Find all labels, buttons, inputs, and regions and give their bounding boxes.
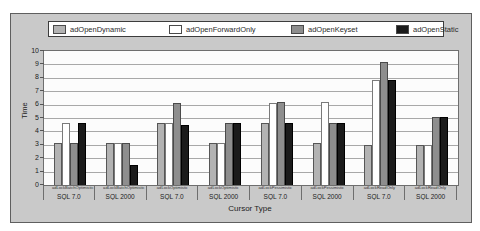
- legend-swatch-icon: [169, 25, 182, 34]
- x-category-sql-version: SQL 2000: [302, 193, 353, 200]
- bar-adOpenKeyset: [380, 62, 388, 185]
- plot-area: [43, 50, 459, 186]
- y-tick-label: 2: [17, 154, 39, 161]
- bar-adOpenKeyset: [277, 102, 285, 185]
- x-category-sql-version: SQL 7.0: [147, 193, 198, 200]
- bar-adOpenStatic: [233, 123, 241, 185]
- x-category-lock-type: adLockOptimistic: [155, 186, 190, 190]
- bar-adOpenForwardOnly: [114, 143, 122, 185]
- bar-adOpenDynamic: [261, 123, 269, 185]
- x-category-cell: adLockBatchOptimisticSQL 7.0: [43, 185, 95, 200]
- bar-adOpenDynamic: [209, 143, 217, 185]
- y-tick-label: 3: [17, 140, 39, 147]
- legend-item: adOpenKeyset: [291, 24, 358, 34]
- x-axis-title: Cursor Type: [43, 204, 457, 213]
- x-axis-category-labels: adLockBatchOptimisticSQL 7.0adLockBatchO…: [43, 185, 457, 201]
- bar-adOpenForwardOnly: [372, 80, 380, 185]
- y-tick-mark: [40, 77, 44, 78]
- x-category-cell: adLockPessimisticSQL 7.0: [250, 185, 302, 200]
- legend-label: adOpenDynamic: [70, 25, 126, 34]
- bar-group: [44, 123, 96, 185]
- legend-label: adOpenKeyset: [308, 25, 358, 34]
- x-category-lock-type: adLockBatchOptimistic: [103, 186, 138, 190]
- bar-adOpenStatic: [440, 117, 448, 185]
- bar-adOpenDynamic: [106, 143, 114, 185]
- bar-adOpenDynamic: [416, 145, 424, 185]
- x-category-lock-type: adLockReadOnly: [413, 186, 448, 190]
- y-tick-mark: [40, 130, 44, 131]
- bar-adOpenKeyset: [225, 123, 233, 185]
- chart-panel: adOpenDynamicadOpenForwardOnlyadOpenKeys…: [10, 13, 472, 223]
- bar-adOpenKeyset: [70, 143, 78, 185]
- bar-adOpenForwardOnly: [217, 143, 225, 185]
- y-tick-mark: [40, 144, 44, 145]
- legend-item: adOpenDynamic: [53, 24, 126, 34]
- y-tick-label: 1: [17, 167, 39, 174]
- bar-group: [251, 102, 303, 185]
- y-axis-title: Time: [20, 96, 29, 126]
- y-tick-mark: [40, 171, 44, 172]
- x-category-lock-type: adLockPessimistic: [310, 186, 345, 190]
- legend-swatch-icon: [291, 25, 304, 34]
- legend-item: adOpenStatic: [396, 24, 458, 34]
- y-tick-label: 9: [17, 60, 39, 67]
- y-tick-mark: [40, 63, 44, 64]
- y-tick-label: 4: [17, 127, 39, 134]
- y-tick-mark: [40, 90, 44, 91]
- bar-group: [355, 62, 407, 185]
- x-category-sql-version: SQL 2000: [95, 193, 146, 200]
- x-category-cell: adLockOptimisticSQL 7.0: [147, 185, 199, 200]
- bar-group: [96, 143, 148, 185]
- bar-group: [148, 103, 200, 185]
- bar-adOpenDynamic: [157, 123, 165, 185]
- bar-adOpenForwardOnly: [62, 123, 70, 185]
- bar-adOpenStatic: [78, 123, 86, 185]
- x-category-lock-type: adLockPessimistic: [258, 186, 293, 190]
- x-category-cell: adLockOptimisticSQL 2000: [198, 185, 250, 200]
- bar-adOpenStatic: [181, 125, 189, 185]
- x-category-sql-version: SQL 7.0: [44, 193, 94, 200]
- x-category-lock-type: adLockBatchOptimistic: [52, 186, 86, 190]
- y-tick-label: 0: [17, 181, 39, 188]
- x-category-cell: adLockBatchOptimisticSQL 2000: [95, 185, 147, 200]
- x-category-lock-type: adLockReadOnly: [362, 186, 397, 190]
- bar-adOpenKeyset: [329, 123, 337, 185]
- bar-adOpenStatic: [388, 80, 396, 185]
- bar-adOpenKeyset: [432, 117, 440, 185]
- bar-adOpenKeyset: [173, 103, 181, 185]
- x-category-cell: adLockReadOnlySQL 2000: [405, 185, 457, 200]
- y-tick-label: 10: [17, 47, 39, 54]
- y-tick-label: 7: [17, 87, 39, 94]
- bar-adOpenForwardOnly: [321, 102, 329, 185]
- bar-adOpenDynamic: [364, 145, 372, 185]
- y-tick-mark: [40, 117, 44, 118]
- x-category-sql-version: SQL 2000: [405, 193, 456, 200]
- bar-group: [406, 117, 458, 185]
- legend: adOpenDynamicadOpenForwardOnlyadOpenKeys…: [48, 21, 444, 37]
- bar-adOpenForwardOnly: [424, 145, 432, 185]
- x-category-cell: adLockPessimisticSQL 2000: [302, 185, 354, 200]
- bar-group: [303, 102, 355, 185]
- y-tick-mark: [40, 104, 44, 105]
- y-tick-label: 8: [17, 73, 39, 80]
- legend-swatch-icon: [53, 25, 66, 34]
- legend-swatch-icon: [396, 25, 409, 34]
- bar-adOpenStatic: [337, 123, 345, 185]
- bar-adOpenStatic: [130, 165, 138, 185]
- legend-label: adOpenForwardOnly: [186, 25, 256, 34]
- legend-item: adOpenForwardOnly: [169, 24, 256, 34]
- y-tick-mark: [40, 50, 44, 51]
- bar-adOpenKeyset: [122, 143, 130, 185]
- bar-adOpenStatic: [285, 123, 293, 185]
- bar-adOpenDynamic: [313, 143, 321, 185]
- bar-adOpenForwardOnly: [165, 123, 173, 185]
- x-category-sql-version: SQL 7.0: [354, 193, 405, 200]
- x-category-sql-version: SQL 7.0: [250, 193, 301, 200]
- bar-adOpenDynamic: [54, 143, 62, 185]
- x-category-lock-type: adLockOptimistic: [206, 186, 241, 190]
- x-category-sql-version: SQL 2000: [198, 193, 249, 200]
- bar-adOpenForwardOnly: [269, 103, 277, 185]
- x-category-cell: adLockReadOnlySQL 7.0: [354, 185, 406, 200]
- y-tick-mark: [40, 157, 44, 158]
- bar-group: [199, 123, 251, 185]
